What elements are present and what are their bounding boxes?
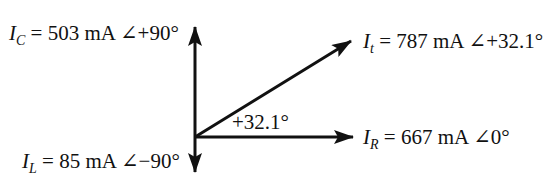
- label-il: IL = 85 mA ∠−90°: [22, 151, 180, 176]
- label-ic: IC = 503 mA ∠+90°: [9, 23, 179, 48]
- label-it: It = 787 mA ∠+32.1°: [363, 31, 543, 56]
- angle-annotation: +32.1°: [232, 112, 289, 133]
- label-ir: IR = 667 mA ∠0°: [363, 127, 510, 152]
